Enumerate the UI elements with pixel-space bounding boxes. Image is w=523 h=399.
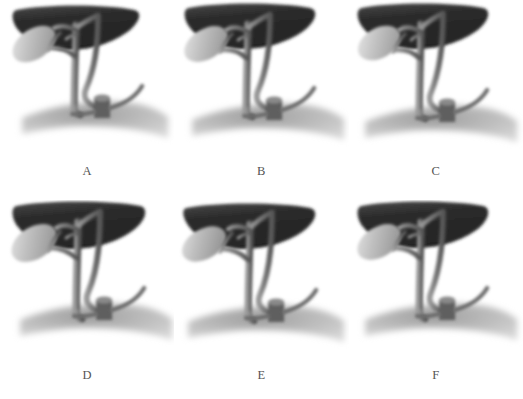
figure-panel-grid: A — [0, 0, 523, 399]
panel-label-b: B — [174, 164, 348, 178]
common-hepatic-duct — [74, 25, 76, 110]
cystic-duct — [50, 248, 76, 258]
figure-panel-d: D — [0, 200, 174, 399]
figure-panel-e: E — [174, 200, 348, 399]
duodenal-papilla — [439, 296, 455, 319]
figure-panel-c: C — [349, 0, 523, 200]
biliary-tree-illustration-d — [0, 200, 174, 360]
common-hepatic-duct — [76, 222, 78, 314]
cystic-duct — [222, 249, 248, 260]
duodenal-papilla — [96, 296, 112, 319]
panel-label-e: E — [174, 368, 348, 382]
panel-label-f: F — [349, 368, 523, 382]
biliary-tree-illustration-b — [174, 0, 348, 160]
biliary-tree-illustration-c — [349, 0, 523, 160]
biliary-tree-illustration-e — [174, 200, 348, 360]
common-hepatic-duct — [419, 24, 421, 114]
common-hepatic-duct — [419, 222, 421, 314]
biliary-tree-illustration-f — [349, 200, 523, 360]
duodenal-papilla — [268, 298, 284, 321]
cystic-duct — [395, 50, 419, 58]
cystic-duct — [222, 50, 246, 58]
cystic-duct — [395, 248, 419, 258]
panel-label-c: C — [349, 164, 523, 178]
biliary-tree-illustration-a — [0, 0, 174, 160]
panel-label-a: A — [0, 164, 174, 178]
common-hepatic-duct — [248, 224, 250, 316]
duodenal-papilla — [266, 97, 282, 120]
panel-label-d: D — [0, 368, 174, 382]
figure-panel-f: F — [349, 200, 523, 399]
figure-panel-a: A — [0, 0, 174, 200]
duodenal-papilla — [94, 95, 110, 118]
figure-panel-b: B — [174, 0, 348, 200]
duodenal-papilla — [439, 99, 455, 122]
